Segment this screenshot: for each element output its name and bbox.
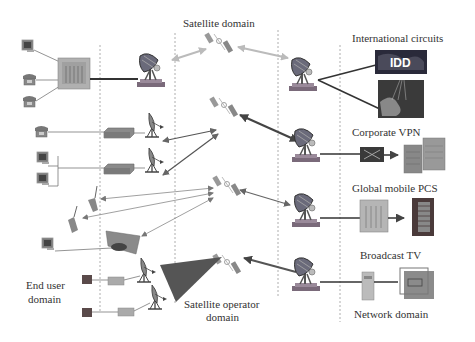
link-satellite-vsat	[163, 130, 216, 141]
pcs-rack-icon	[412, 198, 434, 236]
monitor-icon	[42, 238, 54, 250]
gateway-dish-icon	[137, 54, 165, 87]
end-user-vsat-bottom-2	[82, 285, 167, 317]
network-gateway-dish-icon	[292, 258, 320, 291]
satellite-operator-coverage-beam	[160, 257, 222, 302]
label-broadcast-tv: Broadcast TV	[360, 249, 421, 261]
label-end-user-line2: domain	[28, 293, 61, 305]
satellite-icon	[209, 96, 238, 117]
end-user-computers-vsat	[37, 148, 164, 186]
router-icon	[360, 147, 384, 162]
link-broadcast-uplink	[244, 258, 296, 272]
vsat-dish-icon	[148, 285, 167, 309]
vsat-dish-icon	[137, 258, 156, 282]
mobile-handset-icon	[68, 206, 78, 233]
modem-icon	[104, 128, 134, 138]
telephone-icon	[35, 126, 48, 137]
label-global-mobile-pcs: Global mobile PCS	[352, 182, 438, 194]
label-satellite-operator-line2: domain	[206, 311, 239, 323]
link-satellite-corporate-gateway	[240, 115, 298, 141]
terminal-icon	[82, 275, 92, 284]
modem-icon	[104, 164, 134, 174]
link-satellite-pcs-gateway	[240, 190, 290, 205]
idd-label: IDD	[390, 56, 411, 70]
satellite-network-diagram: Satellite domain End user domain Satelli…	[0, 0, 475, 342]
label-network-domain: Network domain	[354, 308, 429, 320]
international-image-box	[378, 80, 424, 118]
label-corporate-vpn: Corporate VPN	[352, 126, 421, 138]
telephone-icon	[23, 96, 36, 107]
network-gateway-dish-icon	[292, 194, 320, 227]
vsat-dish-icon	[145, 113, 164, 137]
link-satellite-mobile	[83, 193, 213, 218]
modem-icon	[108, 277, 124, 285]
label-satellite-domain: Satellite domain	[183, 17, 255, 29]
satellite-icon	[204, 32, 233, 53]
idd-service-box: IDD	[375, 50, 427, 74]
end-user-pbx-group	[22, 40, 165, 107]
telephone-icon	[23, 74, 36, 85]
network-gateway-dish-icon	[292, 129, 320, 162]
link-satellite-vsat	[163, 134, 218, 175]
satellite-icon	[212, 175, 241, 196]
office-buildings-icon	[404, 138, 445, 173]
terminal-icon	[82, 308, 92, 317]
pbx-switch-icon	[58, 58, 90, 89]
television-display-icon	[400, 268, 434, 299]
network-gateway-dish-icon	[289, 58, 317, 91]
end-user-vsat-bottom-1	[82, 258, 156, 285]
label-international-circuits: International circuits	[352, 32, 443, 44]
vsat-dish-icon	[145, 148, 164, 172]
flat-panel-terminal-icon	[106, 231, 140, 254]
label-satellite-operator-line1: Satellite operator	[184, 298, 260, 310]
link-gateway-satellite	[172, 49, 206, 60]
broadcast-server-icon	[362, 272, 374, 300]
modem-icon	[118, 308, 134, 316]
pcs-switch-icon	[360, 200, 388, 232]
link-satellite-mobile	[101, 188, 213, 199]
satellite-icon	[212, 253, 241, 274]
label-end-user-line1: End user	[26, 279, 65, 291]
mobile-handset-icon	[88, 186, 98, 212]
monitor-icon	[37, 173, 49, 185]
link-satellite-network	[238, 47, 288, 58]
end-user-phone-vsat	[35, 113, 164, 138]
monitor-icon	[37, 152, 49, 164]
link-satellite-terminal	[142, 198, 213, 236]
monitor-icon	[22, 40, 34, 52]
